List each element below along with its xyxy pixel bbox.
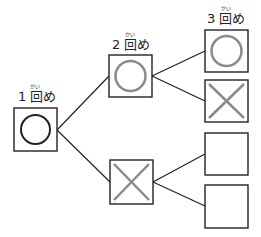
edge-n1-n2b (57, 130, 110, 182)
node-n1 (14, 108, 57, 151)
edge-n1-n2a (57, 76, 109, 130)
node-n3a (205, 30, 248, 72)
tree-diagram (0, 0, 261, 237)
node-n2a (109, 55, 152, 97)
node-n3b (205, 80, 248, 122)
node-n3c (205, 133, 248, 175)
edge-n2b-n3d (153, 182, 205, 206)
edge-n2a-n3a (152, 51, 205, 76)
edge-n2a-n3b (152, 76, 205, 101)
empty-answer-box[interactable] (205, 185, 248, 228)
edge-n2b-n3c (153, 154, 205, 182)
node-n2b (110, 160, 153, 204)
node-n3d (205, 185, 248, 228)
empty-answer-box[interactable] (205, 133, 248, 175)
